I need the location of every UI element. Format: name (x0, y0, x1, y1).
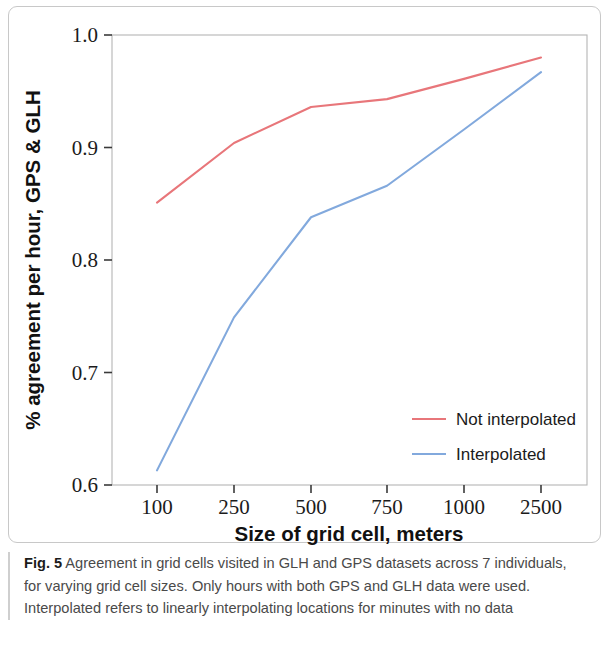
figure-number-label: Fig. 5 (24, 555, 62, 571)
y-axis: 1.0 0.9 0.8 0.7 0.6 (72, 23, 112, 497)
x-tick-label-5: 2500 (520, 495, 562, 519)
figure-root: 1.0 0.9 0.8 0.7 0.6 % agreement per hour… (0, 0, 609, 667)
series-group (157, 58, 541, 471)
legend-label-interpolated: Interpolated (456, 445, 546, 464)
x-axis-title: Size of grid cell, meters (235, 522, 464, 545)
legend: Not interpolated Interpolated (412, 410, 576, 464)
y-tick-label-1: 0.7 (72, 361, 98, 385)
x-tick-label-4: 1000 (443, 495, 485, 519)
y-tick-label-0: 0.6 (72, 473, 98, 497)
line-chart: 1.0 0.9 0.8 0.7 0.6 % agreement per hour… (0, 0, 609, 545)
caption-paragraph: Fig. 5 Agreement in grid cells visited i… (24, 552, 568, 620)
y-tick-label-2: 0.8 (72, 248, 98, 272)
figure-caption: Fig. 5 Agreement in grid cells visited i… (8, 552, 568, 620)
y-tick-label-4: 1.0 (72, 23, 98, 47)
series-line-not-interpolated (157, 58, 541, 203)
x-axis: 100 250 500 750 1000 2500 (141, 485, 562, 519)
x-tick-label-0: 100 (141, 495, 173, 519)
caption-body: Agreement in grid cells visited in GLH a… (24, 555, 567, 616)
legend-label-not-interpolated: Not interpolated (456, 410, 576, 429)
y-axis-title: % agreement per hour, GPS & GLH (21, 90, 44, 429)
x-tick-label-3: 750 (371, 495, 403, 519)
x-tick-label-1: 250 (218, 495, 250, 519)
x-tick-label-2: 500 (295, 495, 327, 519)
y-tick-label-3: 0.9 (72, 136, 98, 160)
